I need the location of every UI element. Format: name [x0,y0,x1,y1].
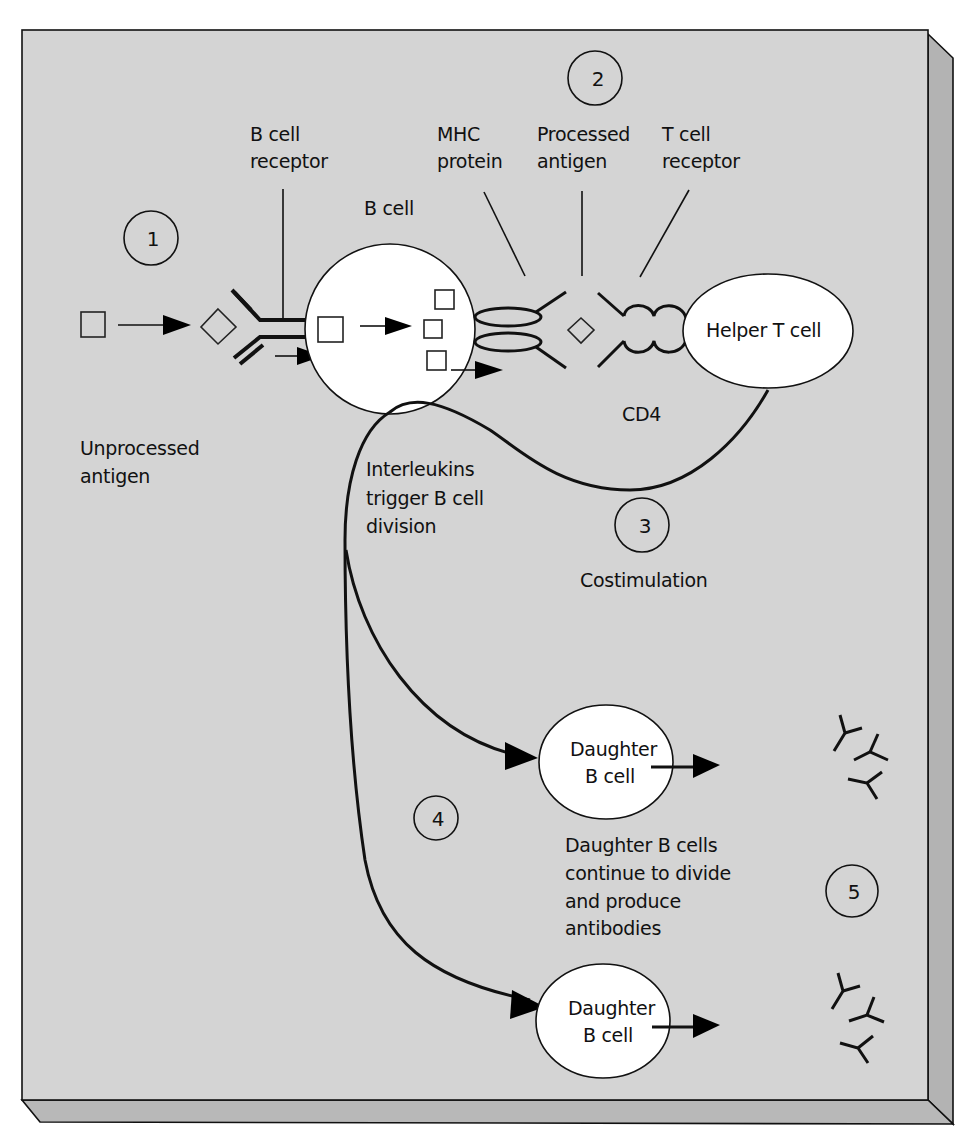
label-daughter-note-line3: and produce [565,890,681,912]
label-mhc-protein-line1: MHC [437,123,480,145]
label-t-cell-receptor-line1: T cell [661,123,711,145]
label-daughter-note-line4: antibodies [565,917,661,939]
label-helper-t-cell: Helper T cell [706,319,821,341]
label-b-cell: B cell [364,197,414,219]
label-interleukins-line1: Interleukins [366,458,474,480]
label-b-cell-receptor-line2: receptor [250,150,328,172]
label-daughter-note-line1: Daughter B cells [565,834,717,856]
label-mhc-protein-line2: protein [437,150,502,172]
frame-right-face [928,34,953,1124]
b-cell-activation-diagram: 1 B cell receptor B cell MHC protein [0,0,966,1130]
daughter-b-cell-2 [536,964,670,1078]
label-daughter-note-line2: continue to divide [565,862,731,884]
label-interleukins-line2: trigger B cell [366,487,484,509]
label-interleukins-line3: division [366,515,436,537]
label-processed-antigen-line2: antigen [537,150,607,172]
label-processed-antigen-line1: Processed [537,123,630,145]
label-b-cell-receptor-line1: B cell [250,123,300,145]
label-t-cell-receptor-line2: receptor [662,150,740,172]
frame-bottom-face [22,1100,953,1124]
label-daughter-2-line1: Daughter [568,997,655,1019]
daughter-b-cell-1 [539,705,673,819]
svg-text:5: 5 [848,880,861,904]
label-daughter-1-line2: B cell [585,765,635,787]
label-daughter-2-line2: B cell [583,1024,633,1046]
label-costimulation: Costimulation [580,569,708,591]
svg-text:1: 1 [147,227,160,251]
frame-front-face [22,30,928,1100]
svg-text:4: 4 [432,807,445,831]
svg-text:3: 3 [639,514,652,538]
label-cd4: CD4 [622,403,661,425]
label-unprocessed-antigen-line2: antigen [80,465,150,487]
svg-text:2: 2 [592,67,605,91]
label-unprocessed-antigen-line1: Unprocessed [80,437,199,459]
frame [22,30,953,1124]
label-daughter-1-line1: Daughter [570,738,657,760]
